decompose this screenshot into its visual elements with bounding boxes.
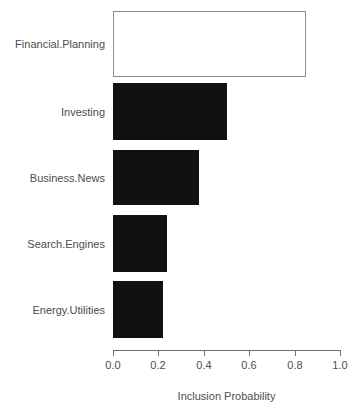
- x-axis-tick-label-3: 0.6: [229, 359, 269, 372]
- x-axis-tick-2: [204, 350, 205, 356]
- category-label-financial-planning: Financial.Planning: [0, 38, 105, 50]
- x-axis-tick-label-4: 0.8: [275, 359, 315, 372]
- x-axis-tick-label-0: 0.0: [93, 359, 133, 372]
- category-label-energy-utilities: Energy.Utilities: [0, 304, 105, 316]
- bar-financial-planning: [113, 11, 306, 77]
- x-axis-tick-label-1: 0.2: [138, 359, 178, 372]
- x-axis-line: [113, 350, 340, 351]
- bar-investing: [113, 83, 227, 140]
- x-axis-title: Inclusion Probability: [113, 390, 340, 403]
- x-axis-tick-5: [340, 350, 341, 356]
- category-label-business-news: Business.News: [0, 172, 105, 184]
- x-axis-tick-0: [113, 350, 114, 356]
- bar-business-news: [113, 150, 199, 205]
- x-axis-tick-4: [295, 350, 296, 356]
- bar-chart: Financial.Planning Investing Business.Ne…: [0, 0, 364, 418]
- x-axis-tick-label-5: 1.0: [320, 359, 360, 372]
- category-label-investing: Investing: [0, 106, 105, 118]
- bar-search-engines: [113, 215, 167, 272]
- category-label-search-engines: Search.Engines: [0, 238, 105, 250]
- x-axis-tick-3: [249, 350, 250, 356]
- bar-energy-utilities: [113, 281, 163, 338]
- x-axis-tick-label-2: 0.4: [184, 359, 224, 372]
- x-axis-tick-1: [158, 350, 159, 356]
